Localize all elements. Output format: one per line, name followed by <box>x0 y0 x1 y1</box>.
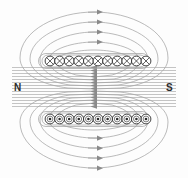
outer-field-loops <box>20 12 168 168</box>
coil-cross-6 <box>93 56 103 66</box>
south-pole-label: S <box>166 83 173 93</box>
coil-cross-1 <box>45 56 55 66</box>
coil-dot-2 <box>55 114 65 124</box>
coil-dot-8 <box>112 114 122 124</box>
center-field-arrows <box>91 65 98 109</box>
coil-dot-4 <box>74 114 84 124</box>
top-arc-arrows <box>88 12 100 42</box>
north-pole-label: N <box>14 83 21 93</box>
coil-cross-11 <box>141 56 151 66</box>
coil-cross-3 <box>64 56 74 66</box>
coil-cross-7 <box>103 56 113 66</box>
coil-dot-11 <box>141 114 151 124</box>
coil-dot-1 <box>45 114 55 124</box>
coil-dot-3 <box>64 114 74 124</box>
coil-dot-6 <box>93 114 103 124</box>
coil-cross-10 <box>132 56 142 66</box>
coil-cross-9 <box>122 56 132 66</box>
coil-dot-10 <box>132 114 142 124</box>
center-arrow-13 <box>91 104 98 109</box>
coil-cross-5 <box>84 56 94 66</box>
solenoid-field-diagram: N S <box>0 0 188 178</box>
bottom-arc-arrows <box>88 138 100 168</box>
coil-cross-8 <box>112 56 122 66</box>
magnetic-field-svg <box>0 0 188 178</box>
coil-cross-2 <box>55 56 65 66</box>
top-coil-row <box>45 56 151 66</box>
coil-dot-5 <box>84 114 94 124</box>
bottom-coil-row <box>45 114 151 124</box>
coil-cross-4 <box>74 56 84 66</box>
coil-dot-9 <box>122 114 132 124</box>
coil-dot-7 <box>103 114 113 124</box>
